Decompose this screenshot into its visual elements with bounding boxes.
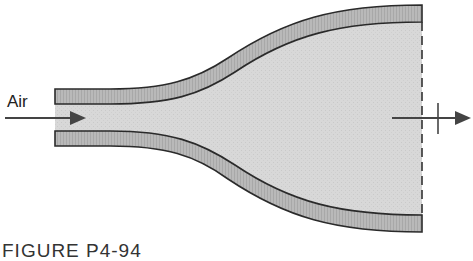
figure-caption: FIGURE P4-94 — [2, 240, 142, 261]
inlet-label: Air — [7, 92, 28, 112]
outlet-arrow-icon — [455, 111, 471, 125]
